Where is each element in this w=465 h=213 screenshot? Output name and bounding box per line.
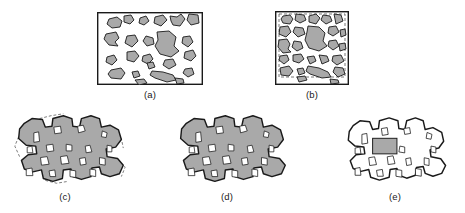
inclusion <box>252 169 258 177</box>
particle <box>107 17 122 28</box>
inclusion <box>60 156 69 165</box>
inclusion <box>355 147 361 154</box>
panel-e-caption: (e) <box>372 191 418 202</box>
particle <box>340 29 346 37</box>
inclusion <box>381 128 388 136</box>
panel-b-field <box>275 11 349 85</box>
inclusion <box>269 145 274 152</box>
inclusion <box>211 170 218 177</box>
inclusion <box>261 158 267 166</box>
inclusion <box>216 126 224 134</box>
particle <box>330 79 339 84</box>
particle <box>175 78 184 84</box>
inclusion <box>27 146 33 153</box>
inclusion <box>431 146 436 153</box>
inclusion <box>424 158 429 166</box>
inclusion <box>90 169 96 177</box>
inclusion <box>188 168 195 176</box>
inclusion <box>228 144 234 151</box>
inclusion <box>66 144 72 151</box>
panel-c-shape <box>10 110 130 188</box>
inclusion <box>99 158 105 166</box>
inclusion <box>46 144 54 152</box>
panel-a-caption: (a) <box>127 89 173 100</box>
inclusion <box>377 169 384 176</box>
inclusion <box>80 158 87 166</box>
inclusion <box>355 167 361 175</box>
panel-d-svg <box>172 110 292 188</box>
inclusion <box>362 133 368 144</box>
inclusion <box>222 156 231 165</box>
inclusion <box>189 146 195 153</box>
panel-e-shape <box>340 113 450 185</box>
panel-e-gray-rectangle <box>373 138 397 154</box>
inclusion <box>34 132 40 142</box>
inclusion <box>26 168 33 176</box>
inclusion <box>399 146 405 153</box>
panel-c-caption: (c) <box>42 191 88 202</box>
inclusion <box>41 157 50 166</box>
inclusion <box>242 158 249 166</box>
inclusion <box>406 158 412 166</box>
inclusion <box>54 126 62 134</box>
panel-c-svg <box>10 110 130 188</box>
inclusion <box>203 157 212 166</box>
panel-d-caption: (d) <box>204 191 250 202</box>
inclusion <box>196 132 202 142</box>
panel-b-caption: (b) <box>289 89 335 100</box>
inclusion <box>232 170 238 178</box>
inclusion <box>107 145 112 152</box>
panel-d-shape <box>172 110 292 188</box>
inclusion <box>49 170 56 177</box>
panel-a-svg <box>97 12 203 85</box>
panel-b-svg <box>275 11 349 85</box>
inclusion <box>70 170 76 178</box>
panel-e-svg <box>340 113 450 185</box>
inclusion <box>415 168 421 176</box>
particle <box>339 43 346 51</box>
figure-canvas: (a)(b)(c)(d)(e) <box>0 0 465 213</box>
panel-a-field <box>97 12 203 85</box>
inclusion <box>208 144 216 152</box>
inclusion <box>404 128 411 135</box>
particle <box>281 15 293 24</box>
inclusion <box>396 169 402 177</box>
